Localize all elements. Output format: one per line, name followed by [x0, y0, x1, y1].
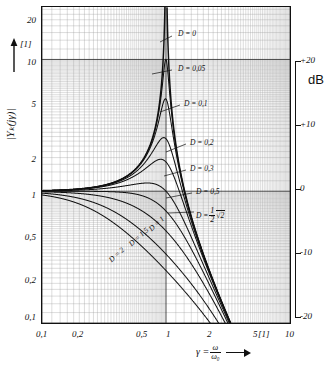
- figure-root: |Yₖ(jγ)| [1] dB [1] γ =ωω₀ 20105210,50,2…: [0, 0, 333, 369]
- x-tick-label-5: 5: [253, 330, 258, 339]
- db-tick-mark: [295, 61, 301, 62]
- omega-denominator: ω₀: [210, 353, 220, 361]
- curve-label-1: D = 0,05: [178, 65, 205, 73]
- x-axis-unit: [1]: [258, 330, 270, 339]
- db-axis-title: dB: [308, 72, 324, 87]
- y-tick-label-2: 5: [0, 100, 36, 109]
- db-tick-label-0: +20: [300, 56, 315, 65]
- db-tick-label-1: +10: [300, 120, 315, 129]
- x-axis-title-lhs: γ =: [196, 346, 209, 357]
- y-tick-label-5: 0,5: [0, 233, 36, 242]
- db-tick-label-3: -10: [300, 248, 312, 257]
- plot-grid-and-curves: [42, 7, 290, 323]
- y-tick-label-1: 10: [0, 58, 36, 67]
- y-tick-label-6: 0,2: [0, 276, 36, 285]
- x-tick-label-0: 0,1: [36, 330, 47, 339]
- y-tick-label-4: 1: [0, 191, 36, 200]
- curve-label-2: D = 0,1: [184, 100, 208, 108]
- curve-label-5: D = 0,5: [196, 188, 220, 196]
- db-tick-mark: [295, 125, 301, 126]
- sqrt-label-prefix: D =: [196, 211, 208, 220]
- curve-label-0: D = 0: [178, 30, 196, 38]
- x-axis-arrow-icon: [226, 350, 252, 356]
- x-axis-title: γ =ωω₀: [196, 344, 252, 362]
- fraction-denominator: 2: [209, 216, 215, 224]
- curve-label-3: D = 0,2: [190, 139, 214, 147]
- curve-label-half-sqrt2: D =12√2: [196, 207, 225, 225]
- plot-area: [41, 6, 291, 324]
- db-tick-mark: [295, 253, 301, 254]
- x-tick-label-6: 10: [285, 330, 294, 339]
- y-axis-unit: [1]: [20, 40, 32, 49]
- y-tick-label-3: 2: [0, 155, 36, 164]
- one-half-fraction: 12: [209, 207, 215, 225]
- omega-ratio-fraction: ωω₀: [210, 344, 220, 362]
- curve-label-4: D = 0,3: [190, 165, 214, 173]
- db-tick-mark: [295, 317, 301, 318]
- x-tick-label-3: 1: [166, 330, 171, 339]
- x-tick-label-2: 0,5: [136, 330, 147, 339]
- y-tick-label-7: 0,1: [0, 313, 36, 322]
- x-tick-label-1: 0,2: [72, 330, 83, 339]
- sqrt-icon: √2: [216, 210, 225, 220]
- db-tick-label-4: -20: [300, 312, 312, 321]
- db-tick-mark: [295, 189, 301, 190]
- x-tick-label-4: 2: [207, 330, 212, 339]
- y-tick-label-0: 20: [0, 16, 36, 25]
